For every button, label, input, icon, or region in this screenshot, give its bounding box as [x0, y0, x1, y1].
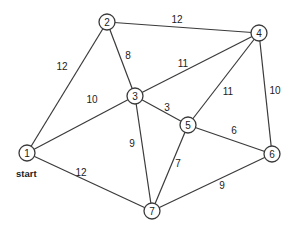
edge-weight-1-7: 12 [75, 167, 87, 178]
edge-weight-2-4: 12 [171, 14, 183, 25]
nodes-layer: 1234567 [19, 14, 280, 219]
edge-1-3 [27, 96, 135, 153]
node-1: 1 [19, 145, 35, 161]
edge-weight-1-2: 12 [56, 61, 68, 72]
edge-weight-4-6: 10 [269, 85, 281, 96]
edge-2-3 [107, 22, 135, 96]
edge-weight-4-5: 11 [223, 86, 234, 97]
weighted-graph-diagram: 12101281211391110679 1234567 start [0, 0, 295, 231]
node-label: 4 [256, 28, 262, 39]
edge-weight-6-7: 9 [219, 180, 225, 191]
edges-layer [27, 22, 272, 211]
edge-weight-3-7: 9 [129, 138, 135, 149]
node-label: 5 [185, 120, 191, 131]
node-3: 3 [127, 88, 143, 104]
edge-5-7 [152, 125, 188, 211]
node-label: 6 [269, 149, 275, 160]
edge-3-7 [135, 96, 152, 211]
edge-6-7 [152, 154, 272, 211]
edge-weight-3-4: 11 [178, 58, 189, 69]
node-label: 7 [149, 206, 155, 217]
edge-weights-layer: 12101281211391110679 [56, 14, 281, 191]
edge-1-2 [27, 22, 107, 153]
edge-weight-3-5: 3 [164, 102, 170, 113]
node-4: 4 [251, 25, 267, 41]
edge-4-5 [188, 33, 259, 125]
start-label: start [16, 168, 37, 179]
edge-3-5 [135, 96, 188, 125]
edge-weight-5-6: 6 [231, 125, 237, 136]
node-label: 1 [24, 148, 30, 159]
node-label: 2 [104, 17, 110, 28]
node-7: 7 [144, 203, 160, 219]
edge-5-6 [188, 125, 272, 154]
node-5: 5 [180, 117, 196, 133]
edge-weight-5-7: 7 [175, 158, 181, 169]
node-label: 3 [132, 91, 138, 102]
edge-1-7 [27, 153, 152, 211]
edge-weight-2-3: 8 [125, 50, 131, 61]
edge-weight-1-3: 10 [86, 94, 98, 105]
edge-2-4 [107, 22, 259, 33]
node-2: 2 [99, 14, 115, 30]
edge-3-4 [135, 33, 259, 96]
node-6: 6 [264, 146, 280, 162]
